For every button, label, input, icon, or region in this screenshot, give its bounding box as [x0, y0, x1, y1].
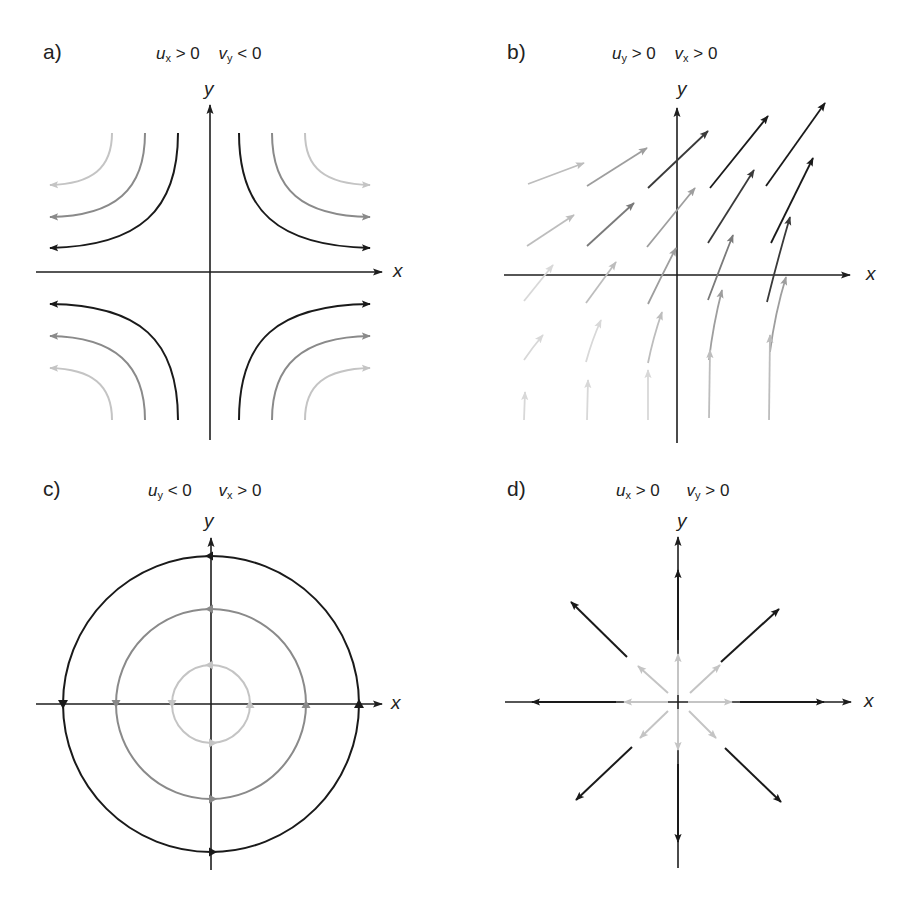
rel: < 0: [237, 44, 261, 63]
panel-c-label: c): [43, 477, 61, 501]
panel-d-label: d): [507, 477, 526, 501]
sub: x: [165, 52, 171, 64]
panel-b-label: b): [507, 40, 526, 64]
sub: y: [227, 52, 233, 64]
rel: < 0: [168, 481, 192, 500]
panel-b-vectors: [524, 103, 825, 420]
rel: > 0: [237, 481, 261, 500]
panel-d-conditions: ux > 0 vy > 0: [616, 481, 729, 501]
panel-a-label: a): [43, 40, 62, 64]
rel: > 0: [632, 44, 656, 63]
rel: > 0: [176, 44, 200, 63]
sub: y: [157, 489, 163, 501]
panel-b-conditions: uy > 0 vx > 0: [612, 44, 717, 64]
panel-b-x-label: x: [866, 263, 876, 285]
rel: > 0: [693, 44, 717, 63]
flow-field-figure: [0, 0, 913, 904]
var: v: [219, 44, 228, 63]
panel-a-conditions: ux > 0 vy < 0: [156, 44, 261, 64]
sub: x: [625, 489, 631, 501]
panel-b-diagram: [504, 103, 850, 443]
panel-c-y-label: y: [204, 510, 214, 532]
sub: x: [227, 489, 233, 501]
sub: y: [621, 52, 627, 64]
sub: y: [695, 489, 701, 501]
panel-c-diagram: [36, 538, 382, 870]
panel-d-diagram: [505, 537, 851, 868]
panel-d-y-label: y: [677, 510, 687, 532]
panel-d-x-label: x: [864, 690, 874, 712]
rel: > 0: [636, 481, 660, 500]
panel-a-diagram: [36, 105, 382, 440]
panel-c-x-label: x: [391, 692, 401, 714]
rel: > 0: [705, 481, 729, 500]
var: v: [219, 481, 228, 500]
var: v: [687, 481, 696, 500]
panel-c-conditions: uy < 0 vx > 0: [148, 481, 261, 501]
sub: x: [683, 52, 689, 64]
var: v: [675, 44, 684, 63]
panel-b-y-label: y: [677, 78, 687, 100]
panel-a-x-label: x: [393, 260, 403, 282]
panel-a-y-label: y: [204, 78, 214, 100]
